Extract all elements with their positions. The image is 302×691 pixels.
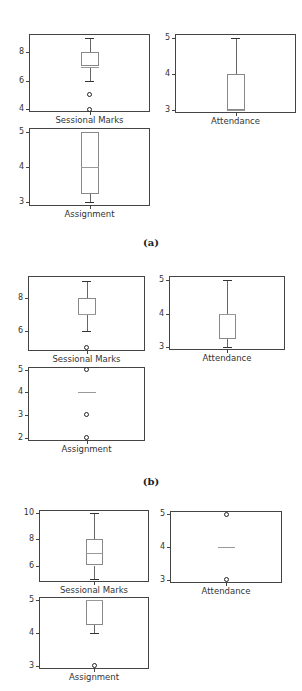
group-b-sessional-marks-upper-cap [82,281,91,282]
group-c-sessional-marks-lower-whisker [94,566,95,579]
group-c-attendance-xlabel: Attendance [170,586,282,596]
group-a-sessional-marks-median-line [81,67,99,68]
group-b-assignment-panel [28,367,145,441]
group-b-sessional-marks-ytick-label: 6 [3,327,23,335]
group-a-sessional-marks-lower-whisker [90,67,91,81]
group-c-sessional-marks-ytick-mark [36,566,39,567]
group-a-sessional-marks-outlier-marker [87,92,92,97]
group-c-assignment-ytick-label: 4 [14,629,34,637]
group-a-assignment-xlabel: Assignment [29,209,150,219]
group-c-sessional-marks-ytick-label: 8 [14,535,34,543]
group-c-assignment-lower-whisker [94,625,95,633]
group-b-sessional-marks-lower-whisker [87,314,88,331]
group-b-attendance-ytick-mark [166,314,169,315]
group-a-assignment-ytick-label: 5 [4,128,24,136]
group-c-assignment-ytick-label: 5 [14,596,34,604]
group-b-assignment-ytick-label: 5 [3,366,23,374]
group-a-attendance-upper-cap [231,38,240,39]
group-c-assignment-outlier-marker [92,663,97,668]
group-c-sessional-marks-upper-cap [90,513,99,514]
group-b-assignment-ytick-mark [25,392,28,393]
group-b-assignment-outlier-marker [84,367,89,372]
group-a-attendance-xlabel: Attendance [175,116,296,126]
group-b-attendance-ytick-mark [166,347,169,348]
group-a-assignment-median-line [81,167,99,168]
group-b-assignment-ytick-label: 2 [3,434,23,442]
group-b-assignment-ytick-label: 3 [3,411,23,419]
caption-b: (b) [131,476,171,487]
group-b-sessional-marks-upper-whisker [87,281,88,298]
group-a-assignment-ytick-label: 4 [4,163,24,171]
group-a-sessional-marks-upper-cap [85,38,94,39]
group-b-assignment-outlier-marker [84,435,89,440]
group-c-attendance-ytick-label: 5 [145,510,165,518]
group-c-assignment-xlabel: Assignment [39,672,149,682]
group-b-sessional-marks-ytick-mark [25,298,28,299]
group-a-sessional-marks-upper-whisker [90,38,91,52]
group-a-attendance-iqr-box [227,74,245,110]
group-c-attendance-outlier-marker [224,512,229,517]
group-c-attendance-ytick-mark [167,547,170,548]
group-b-attendance-lower-cap [223,347,232,348]
group-a-sessional-marks-ytick-label: 8 [4,48,24,56]
group-a-sessional-marks-ytick-mark [26,109,29,110]
group-b-attendance-iqr-box [219,314,236,339]
group-c-assignment-ytick-mark [36,633,39,634]
group-c-sessional-marks-ytick-mark [36,513,39,514]
group-b-sessional-marks-median-line [78,314,96,315]
group-c-assignment-median-line [86,600,103,601]
group-b-assignment-xlabel: Assignment [28,444,145,454]
group-b-assignment-ytick-mark [25,415,28,416]
group-b-sessional-marks-lower-cap [82,331,91,332]
group-b-sessional-marks-iqr-box [78,298,96,315]
group-a-assignment-iqr-box [81,132,99,194]
group-b-assignment-ytick-label: 4 [3,388,23,396]
group-b-attendance-lower-whisker [227,339,228,347]
group-a-sessional-marks-iqr-box [81,52,99,66]
group-a-sessional-marks-ytick-label: 6 [4,77,24,85]
group-b-attendance-ytick-label: 4 [144,310,164,318]
group-a-sessional-marks-ytick-mark [26,52,29,53]
group-b-attendance-upper-cap [223,280,232,281]
group-c-sessional-marks-lower-cap [90,579,99,580]
group-a-sessional-marks-ytick-mark [26,81,29,82]
group-a-attendance-ytick-mark [172,38,175,39]
group-b-assignment-ytick-mark [25,370,28,371]
group-a-sessional-marks-xlabel: Sessional Marks [29,115,150,125]
group-a-attendance-ytick-mark [172,110,175,111]
group-b-assignment-median-line [78,392,96,393]
group-a-assignment-lower-cap [85,202,94,203]
group-c-sessional-marks-ytick-label: 10 [14,509,34,517]
group-c-attendance-ytick-label: 4 [145,543,165,551]
group-c-attendance-ytick-mark [167,514,170,515]
group-b-attendance-ytick-label: 5 [144,276,164,284]
group-b-assignment-ytick-mark [25,438,28,439]
group-a-attendance-ytick-mark [172,74,175,75]
group-a-sessional-marks-lower-cap [85,81,94,82]
group-c-assignment-ytick-label: 3 [14,662,34,670]
group-c-sessional-marks-iqr-box [86,539,103,565]
group-b-sessional-marks-ytick-label: 8 [3,294,23,302]
group-c-assignment-ytick-mark [36,600,39,601]
group-a-attendance-upper-whisker [236,38,237,74]
group-a-assignment-ytick-mark [26,167,29,168]
group-a-sessional-marks-outlier-marker [87,107,92,112]
group-a-assignment-ytick-label: 3 [4,198,24,206]
group-b-sessional-marks-xlabel: Sessional Marks [28,354,145,364]
group-c-attendance-ytick-mark [167,580,170,581]
group-a-sessional-marks-ytick-label: 4 [4,105,24,113]
group-c-attendance-ytick-label: 3 [145,576,165,584]
group-c-assignment-iqr-box [86,600,103,625]
group-b-assignment-outlier-marker [84,412,89,417]
group-b-attendance-ytick-label: 3 [144,343,164,351]
group-a-attendance-ytick-label: 5 [150,34,170,42]
group-b-attendance-xlabel: Attendance [169,353,285,363]
group-b-sessional-marks-outlier-marker [84,345,89,350]
group-c-sessional-marks-upper-whisker [94,513,95,539]
group-a-assignment-ytick-mark [26,132,29,133]
group-c-assignment-ytick-mark [36,666,39,667]
group-a-attendance-median-line [227,110,245,111]
group-c-sessional-marks-xlabel: Sessional Marks [39,585,149,595]
group-a-attendance-ytick-label: 4 [150,70,170,78]
group-b-attendance-upper-whisker [227,280,228,314]
